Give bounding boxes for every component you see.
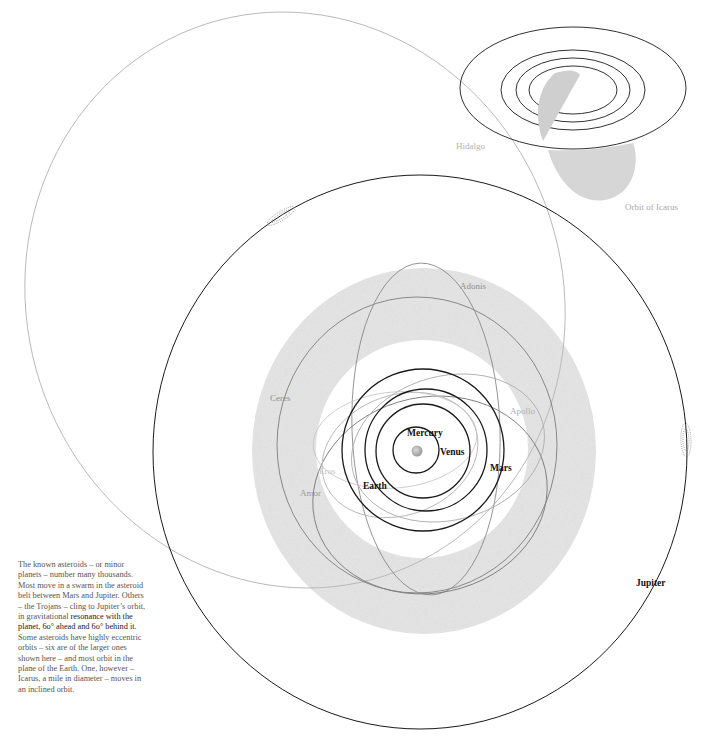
label-orbit-of-icarus: Orbit of Icarus: [625, 202, 678, 212]
label-earth: Earth: [363, 481, 387, 491]
icarus-inset: Orbit of Icarus: [460, 27, 686, 212]
label-amor: Amor: [300, 488, 321, 498]
asteroid-belt: [252, 268, 596, 634]
sun-icon: [412, 446, 423, 457]
label-eros: Eros: [319, 466, 336, 476]
caption-part-3: Some asteroids have highly eccentric orb…: [18, 633, 142, 694]
label-mercury: Mercury: [407, 428, 443, 438]
label-ceres: Ceres: [270, 393, 291, 403]
caption-text: The known asteroids – or minor planets –…: [18, 560, 148, 695]
label-venus: Venus: [440, 447, 465, 457]
label-jupiter: Jupiter: [636, 578, 666, 588]
icarus-plane-lower: [548, 143, 636, 201]
label-adonis: Adonis: [460, 281, 487, 291]
label-mars: Mars: [490, 463, 512, 473]
label-hidalgo: Hidalgo: [456, 141, 485, 151]
label-apollo: Apollo: [510, 406, 536, 416]
